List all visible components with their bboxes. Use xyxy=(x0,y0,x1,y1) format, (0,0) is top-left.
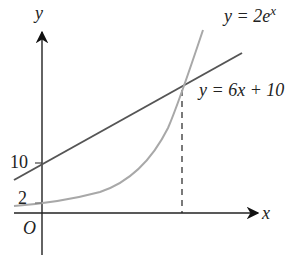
y-axis-label: y xyxy=(33,3,43,23)
tick-label-2: 2 xyxy=(18,188,27,208)
curve-equation-exponent: x xyxy=(269,3,276,18)
x-axis-label: x xyxy=(261,203,270,223)
tick-label-10: 10 xyxy=(10,152,28,172)
curve-equation-base: y = 2e xyxy=(222,6,270,26)
line-y-6x-10 xyxy=(14,53,242,180)
origin-label: O xyxy=(23,218,36,238)
graph-canvas: y x O 10 2 y = 2ex y = 6x + 10 xyxy=(0,0,295,261)
graph-figure: y x O 10 2 y = 2ex y = 6x + 10 xyxy=(0,0,295,261)
curve-equation-label: y = 2ex xyxy=(222,3,276,26)
line-equation-label: y = 6x + 10 xyxy=(197,80,284,100)
